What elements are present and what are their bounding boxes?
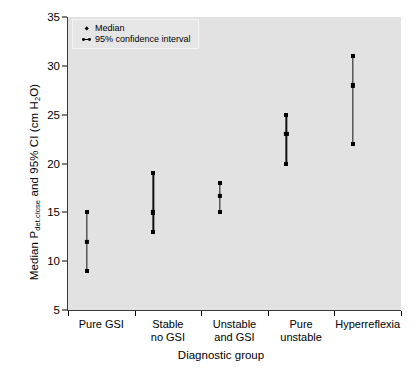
chart-legend: Median95% confidence interval [72, 19, 199, 49]
median-marker [284, 132, 288, 136]
plot-area [68, 17, 401, 310]
ci-upper-marker [284, 113, 288, 117]
ci-upper-marker [85, 210, 89, 214]
y-tick-label: 20 [47, 158, 60, 170]
y-tick-mark [62, 163, 67, 164]
x-tick-label-line: unstable [280, 331, 322, 344]
x-axis-tick-labels: Pure GSIStableno GSIUnstableand GSIPureu… [0, 316, 418, 348]
x-tick-label: Unstableand GSI [213, 318, 256, 343]
x-axis-title: Diagnostic group [0, 349, 418, 361]
x-tick-label-line: Pure GSI [79, 318, 124, 331]
y-tick-mark [62, 212, 67, 213]
chart-figure: 5101520253035 Median Pdet.close and 95% … [0, 0, 418, 368]
x-tick-label-line: Pure [280, 318, 322, 331]
ci-lower-marker [85, 269, 89, 273]
median-marker [85, 240, 89, 244]
y-tick-mark [62, 65, 67, 66]
x-axis-title-text: Diagnostic group [178, 349, 264, 361]
ci-lower-marker [284, 162, 288, 166]
diamond-marker-icon [78, 27, 95, 30]
ci-upper-marker [218, 181, 222, 185]
x-tick-label-line: Unstable [213, 318, 256, 331]
confidence-interval-line [286, 115, 287, 164]
y-tick-label: 30 [47, 60, 60, 72]
median-marker [351, 83, 355, 87]
legend-item: 95% confidence interval [78, 34, 191, 45]
x-tick-label-line: no GSI [151, 331, 185, 344]
confidence-interval-line [352, 56, 353, 144]
interval-bar-icon [78, 38, 95, 41]
x-tick-label: Pure GSI [79, 318, 124, 331]
ci-lower-marker [351, 142, 355, 146]
confidence-interval-line [153, 173, 154, 232]
legend-label: 95% confidence interval [95, 34, 191, 45]
x-tick-label: Hyperreflexia [335, 318, 400, 331]
y-tick-label: 10 [47, 255, 60, 267]
y-axis-title: Median Pdet.close and 95% CI (cm H2O) [28, 52, 40, 312]
y-tick-mark [62, 261, 67, 262]
y-tick-mark [62, 114, 67, 115]
legend-label: Median [95, 23, 125, 34]
y-tick-label: 35 [47, 11, 60, 23]
ci-lower-marker [151, 230, 155, 234]
ci-upper-marker [351, 54, 355, 58]
ci-lower-marker [218, 210, 222, 214]
legend-item: Median [78, 23, 191, 34]
median-marker [151, 210, 155, 214]
x-tick-label: Stableno GSI [151, 318, 185, 343]
x-tick-label-line: Stable [151, 318, 185, 331]
x-tick-label-line: Hyperreflexia [335, 318, 400, 331]
median-marker [218, 194, 222, 198]
y-tick-label: 25 [47, 109, 60, 121]
ci-upper-marker [151, 171, 155, 175]
x-tick-label: Pureunstable [280, 318, 322, 343]
x-tick-label-line: and GSI [213, 331, 256, 344]
y-tick-mark [62, 17, 67, 18]
y-tick-label: 15 [47, 206, 60, 218]
